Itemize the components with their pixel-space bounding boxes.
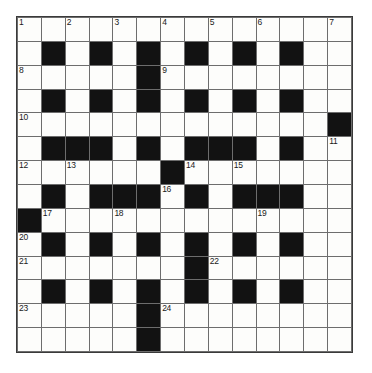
open-cell[interactable] [137,257,160,280]
open-cell[interactable] [328,185,351,208]
open-cell[interactable] [66,66,89,89]
open-cell[interactable] [42,66,65,89]
open-cell[interactable] [209,161,232,184]
open-cell[interactable] [161,257,184,280]
open-cell[interactable] [304,66,327,89]
open-cell[interactable]: 14 [185,161,208,184]
open-cell[interactable] [113,137,136,160]
open-cell[interactable] [161,90,184,113]
open-cell[interactable] [113,113,136,136]
open-cell[interactable] [304,328,327,351]
open-cell[interactable] [66,185,89,208]
open-cell[interactable] [161,113,184,136]
open-cell[interactable] [161,280,184,303]
open-cell[interactable] [185,209,208,232]
open-cell[interactable] [257,42,280,65]
open-cell[interactable]: 12 [18,161,41,184]
open-cell[interactable]: 7 [328,18,351,41]
open-cell[interactable] [90,113,113,136]
open-cell[interactable]: 17 [42,209,65,232]
open-cell[interactable] [304,137,327,160]
open-cell[interactable] [66,304,89,327]
open-cell[interactable] [66,233,89,256]
open-cell[interactable] [90,161,113,184]
open-cell[interactable] [66,328,89,351]
open-cell[interactable] [113,304,136,327]
open-cell[interactable]: 22 [209,257,232,280]
open-cell[interactable] [66,209,89,232]
open-cell[interactable] [280,161,303,184]
open-cell[interactable] [280,328,303,351]
open-cell[interactable] [42,304,65,327]
open-cell[interactable]: 6 [257,18,280,41]
open-cell[interactable] [280,209,303,232]
open-cell[interactable] [257,161,280,184]
open-cell[interactable] [280,18,303,41]
open-cell[interactable] [137,113,160,136]
open-cell[interactable] [233,209,256,232]
open-cell[interactable] [328,66,351,89]
open-cell[interactable] [90,209,113,232]
open-cell[interactable] [18,280,41,303]
open-cell[interactable] [113,66,136,89]
open-cell[interactable]: 8 [18,66,41,89]
open-cell[interactable] [328,328,351,351]
open-cell[interactable] [66,257,89,280]
open-cell[interactable] [304,280,327,303]
open-cell[interactable] [328,42,351,65]
open-cell[interactable] [257,233,280,256]
open-cell[interactable] [185,304,208,327]
open-cell[interactable] [161,233,184,256]
open-cell[interactable]: 19 [257,209,280,232]
open-cell[interactable] [209,66,232,89]
open-cell[interactable] [18,90,41,113]
open-cell[interactable] [257,137,280,160]
open-cell[interactable] [18,328,41,351]
open-cell[interactable] [328,209,351,232]
open-cell[interactable] [328,257,351,280]
open-cell[interactable] [185,18,208,41]
open-cell[interactable] [113,328,136,351]
open-cell[interactable] [161,42,184,65]
open-cell[interactable]: 24 [161,304,184,327]
open-cell[interactable] [209,90,232,113]
open-cell[interactable] [233,304,256,327]
open-cell[interactable] [304,185,327,208]
open-cell[interactable] [113,257,136,280]
open-cell[interactable]: 4 [161,18,184,41]
open-cell[interactable] [209,304,232,327]
open-cell[interactable] [304,18,327,41]
open-cell[interactable] [90,328,113,351]
open-cell[interactable] [18,185,41,208]
open-cell[interactable] [280,257,303,280]
open-cell[interactable]: 2 [66,18,89,41]
open-cell[interactable] [209,185,232,208]
open-cell[interactable] [328,280,351,303]
open-cell[interactable]: 23 [18,304,41,327]
open-cell[interactable] [113,42,136,65]
open-cell[interactable] [113,161,136,184]
open-cell[interactable] [233,18,256,41]
open-cell[interactable] [304,209,327,232]
open-cell[interactable] [209,233,232,256]
open-cell[interactable]: 11 [328,137,351,160]
open-cell[interactable] [113,90,136,113]
open-cell[interactable]: 21 [18,257,41,280]
open-cell[interactable] [328,161,351,184]
open-cell[interactable] [233,257,256,280]
open-cell[interactable]: 3 [113,18,136,41]
open-cell[interactable]: 10 [18,113,41,136]
open-cell[interactable] [137,18,160,41]
open-cell[interactable] [304,233,327,256]
open-cell[interactable] [328,233,351,256]
open-cell[interactable] [257,328,280,351]
open-cell[interactable] [257,304,280,327]
open-cell[interactable] [209,328,232,351]
open-cell[interactable]: 18 [113,209,136,232]
open-cell[interactable]: 5 [209,18,232,41]
open-cell[interactable] [328,90,351,113]
crossword-grid[interactable]: 123456789101112131415161718192021222324 [16,16,353,353]
open-cell[interactable] [280,304,303,327]
open-cell[interactable] [257,257,280,280]
open-cell[interactable] [257,280,280,303]
